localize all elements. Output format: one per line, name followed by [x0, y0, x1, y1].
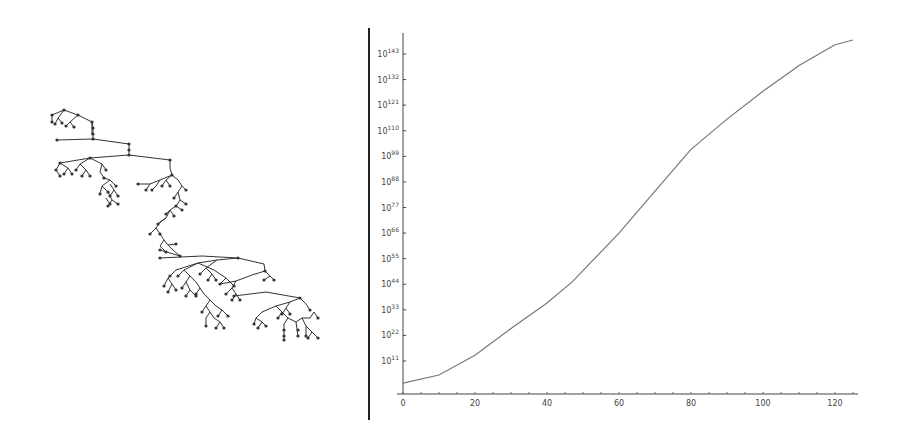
y-tick-label: 10143: [377, 47, 399, 59]
y-tick-label: 1055: [381, 252, 399, 264]
x-tick-label: 40: [542, 399, 552, 408]
x-tick-label: 0: [400, 399, 405, 408]
x-tick-label: 20: [470, 399, 480, 408]
y-tick-label: 10132: [377, 73, 399, 85]
y-tick-label: 1077: [381, 201, 399, 213]
x-tick-label: 60: [614, 399, 624, 408]
y-tick-label: 10121: [377, 98, 399, 110]
y-tick-label: 1044: [381, 277, 399, 289]
y-tick-label: 1033: [381, 303, 399, 315]
y-tick-label: 10110: [377, 124, 399, 136]
y-ticks: 1011102210331044105510661077108810991011…: [377, 47, 406, 366]
y-tick-label: 1088: [381, 175, 399, 187]
x-tick-label: 120: [827, 399, 842, 408]
y-tick-label: 1011: [381, 354, 399, 366]
y-tick-label: 1022: [381, 328, 399, 340]
y-tick-label: 1099: [381, 149, 399, 161]
data-line: [403, 40, 853, 383]
log-line-chart: 1011102210331044105510661077108810991011…: [0, 0, 906, 442]
x-tick-label: 80: [686, 399, 696, 408]
x-tick-label: 100: [755, 399, 770, 408]
y-tick-label: 1066: [381, 226, 399, 238]
